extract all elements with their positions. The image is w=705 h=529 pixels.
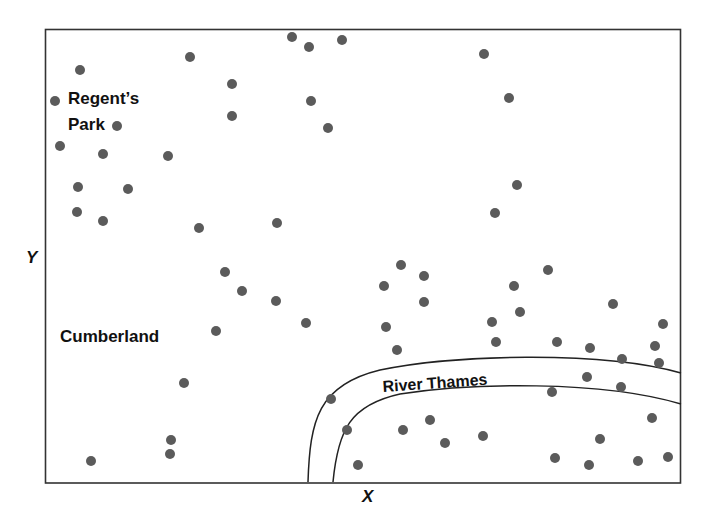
data-point	[272, 218, 282, 228]
data-point	[490, 208, 500, 218]
data-point	[194, 223, 204, 233]
data-point	[301, 318, 311, 328]
data-point	[185, 52, 195, 62]
data-point	[440, 438, 450, 448]
data-point	[227, 111, 237, 121]
data-point	[86, 456, 96, 466]
data-point	[326, 394, 336, 404]
data-point	[543, 265, 553, 275]
data-point	[98, 216, 108, 226]
data-point	[398, 425, 408, 435]
data-point	[547, 387, 557, 397]
data-point	[98, 149, 108, 159]
data-point	[50, 96, 60, 106]
data-point	[337, 35, 347, 45]
data-point	[491, 337, 501, 347]
data-point	[304, 42, 314, 52]
data-point	[271, 296, 281, 306]
data-point	[512, 180, 522, 190]
data-point	[425, 415, 435, 425]
data-point	[73, 182, 83, 192]
data-point	[616, 382, 626, 392]
map-diagram: Regent’s Park Cumberland River Thames X …	[0, 0, 705, 529]
data-point	[379, 281, 389, 291]
data-point	[487, 317, 497, 327]
data-point	[585, 343, 595, 353]
data-point	[306, 96, 316, 106]
data-point	[647, 413, 657, 423]
data-point	[112, 121, 122, 131]
data-point	[550, 453, 560, 463]
river-thames-label: River Thames	[382, 371, 488, 395]
data-point	[55, 141, 65, 151]
plot-frame	[46, 30, 681, 484]
data-point	[237, 286, 247, 296]
data-point	[381, 322, 391, 332]
data-point	[342, 425, 352, 435]
data-point	[75, 65, 85, 75]
data-point	[72, 207, 82, 217]
data-point	[396, 260, 406, 270]
river-lower-bank	[333, 386, 681, 482]
river-upper-bank	[308, 357, 681, 482]
data-point	[227, 79, 237, 89]
data-point	[658, 319, 668, 329]
data-point	[166, 435, 176, 445]
data-point	[211, 326, 221, 336]
data-point	[654, 358, 664, 368]
regents-park-label-line1: Regent’s	[68, 89, 139, 108]
data-point	[515, 307, 525, 317]
data-point	[595, 434, 605, 444]
data-point	[582, 372, 592, 382]
data-point	[663, 452, 673, 462]
cumberland-label: Cumberland	[60, 327, 159, 346]
regents-park-label-line2: Park	[68, 115, 105, 134]
data-point	[552, 337, 562, 347]
data-point	[287, 32, 297, 42]
data-point	[165, 449, 175, 459]
data-point	[323, 123, 333, 133]
data-point	[650, 341, 660, 351]
data-point	[478, 431, 488, 441]
data-point	[123, 184, 133, 194]
data-point	[419, 271, 429, 281]
data-point	[617, 354, 627, 364]
data-point	[608, 299, 618, 309]
data-point	[392, 345, 402, 355]
data-point	[179, 378, 189, 388]
data-point	[509, 281, 519, 291]
data-point	[479, 49, 489, 59]
data-point	[353, 460, 363, 470]
data-point	[163, 151, 173, 161]
y-axis-label: Y	[26, 248, 39, 267]
data-point	[220, 267, 230, 277]
data-point	[584, 460, 594, 470]
data-point	[419, 297, 429, 307]
data-point	[504, 93, 514, 103]
data-point	[633, 456, 643, 466]
x-axis-label: X	[361, 487, 375, 506]
data-points	[50, 32, 673, 470]
